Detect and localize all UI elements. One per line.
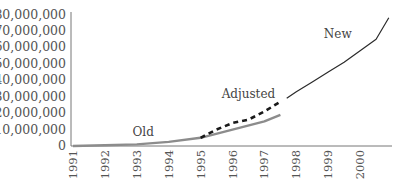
- x-tick-label: 1999: [321, 150, 335, 179]
- annotation-adjusted: Adjusted: [221, 87, 276, 101]
- y-tick-label: 40,000,000: [0, 72, 66, 87]
- x-axis-tick-labels: 1991199219931994199519961997199819992000: [66, 150, 367, 179]
- y-tick-label: 50,000,000: [0, 56, 66, 71]
- x-tick-label: 2000: [353, 150, 367, 179]
- x-tick-label: 1995: [194, 150, 208, 179]
- x-tick-label: 1993: [130, 150, 144, 179]
- annotation-new: New: [324, 27, 353, 41]
- x-tick-label: 1994: [162, 150, 176, 179]
- y-tick-label: 10,000,000: [0, 122, 66, 137]
- annotation-old: Old: [133, 125, 155, 139]
- x-tick-label: 1998: [289, 150, 303, 179]
- y-tick-label: 70,000,000: [0, 23, 66, 38]
- y-tick-label: 80,000,000: [0, 7, 66, 22]
- x-tick-label: 1996: [226, 150, 240, 179]
- y-tick-label: 30,000,000: [0, 89, 66, 104]
- y-axis-tick-labels: 010,000,00020,000,00030,000,00040,000,00…: [0, 7, 66, 154]
- y-tick-label: 20,000,000: [0, 105, 66, 120]
- y-tick-label: 60,000,000: [0, 39, 66, 54]
- x-tick-label: 1997: [257, 150, 271, 179]
- line-chart: 010,000,00020,000,00030,000,00040,000,00…: [0, 0, 407, 183]
- y-tick-label: 0: [58, 138, 66, 153]
- series-line-old: [73, 115, 280, 146]
- x-tick-label: 1992: [98, 150, 112, 179]
- x-tick-label: 1991: [66, 150, 80, 179]
